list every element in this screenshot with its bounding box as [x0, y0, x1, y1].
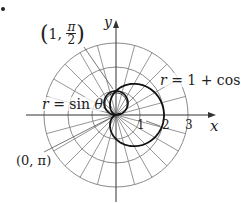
- curve-label-sin-theta: θ: [94, 96, 102, 112]
- curve-label-sin: r = sin θ: [42, 97, 103, 111]
- open-paren: (: [40, 21, 49, 46]
- fraction-denominator: 2: [66, 34, 76, 46]
- y-axis-label: y: [104, 15, 112, 29]
- tick-label-1: 1: [137, 119, 145, 131]
- leader-line-point-origin: [44, 116, 114, 152]
- grid-ray: [97, 115, 116, 185]
- bullet-marker: [1, 7, 5, 11]
- curve-label-card-r: r: [160, 72, 167, 88]
- curve-label-cardioid: r = 1 + cos θ: [160, 73, 241, 87]
- grid-ray: [116, 115, 186, 134]
- grid-ray: [46, 115, 116, 134]
- tick-label-2: 2: [162, 119, 170, 131]
- curve-label-sin-r: r: [42, 96, 49, 112]
- curve-label-card-rest: = 1 + cos: [167, 72, 241, 88]
- fraction-pi-over-2: π2: [66, 21, 76, 46]
- close-paren: ): [76, 21, 85, 46]
- grid-ray: [116, 45, 135, 115]
- point-label-1-pi-over-2: (1, π2): [40, 21, 85, 46]
- tick-label-3: 3: [185, 119, 193, 131]
- polar-graph: [0, 0, 241, 203]
- grid-ray: [116, 115, 135, 185]
- point-r-value: 1,: [49, 26, 62, 42]
- x-axis-label: x: [210, 119, 218, 134]
- y-axis-arrow-icon: [113, 20, 119, 28]
- curve-label-sin-rest: = sin: [49, 96, 95, 112]
- point-label-0-pi: (0, π): [16, 154, 51, 167]
